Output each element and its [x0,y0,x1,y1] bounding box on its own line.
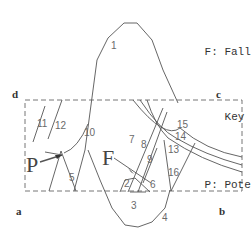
legend-potential-line1: Potential [224,179,251,191]
label-8: 8 [141,139,147,150]
p-arrow-tick [45,152,62,155]
label-9: 9 [147,154,153,165]
legend-item-falling: F: Falling [165,33,251,72]
label-2: 2 [124,178,130,189]
legend: F: Falling Key Block P: Potential Key bl… [165,7,251,237]
label-11: 11 [37,118,48,129]
key-block-diagram: d a b c P F 1 2 3 4 5 6 7 8 9 10 11 12 1… [0,0,251,237]
corner-d: d [12,88,18,100]
legend-falling-line2: Key Block [225,111,251,123]
legend-key-f: F: [205,46,218,58]
legend-falling-line1: Falling [224,46,251,58]
legend-item-potential: P: Potential [165,166,251,205]
block-f-label: F [102,145,114,170]
label-6: 6 [150,179,156,190]
label-3: 3 [131,200,137,211]
legend-falling-line2-row: Key Block [165,98,251,137]
legend-potential-line2-row: Key block [165,231,251,237]
block-p-label: P [26,152,38,177]
legend-key-p: P: [205,179,218,191]
label-10: 10 [84,127,96,138]
label-1: 1 [111,40,117,51]
corner-a: a [16,205,22,217]
label-12: 12 [55,120,67,131]
fracture-5b [61,151,76,191]
label-7: 7 [129,134,135,145]
label-5: 5 [69,172,75,183]
